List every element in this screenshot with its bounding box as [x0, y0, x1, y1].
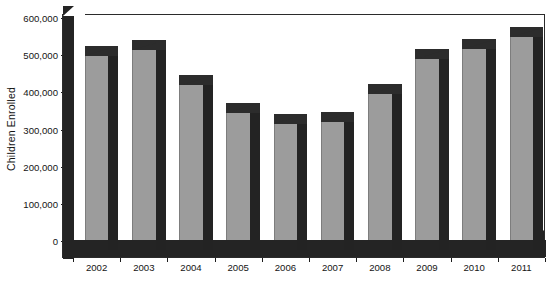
bar-front-face	[132, 50, 156, 240]
bar-front-face	[274, 124, 298, 240]
x-axis-tick-label: 2009	[407, 262, 447, 273]
x-axis-tick-mark	[403, 258, 404, 262]
bar-front-face	[226, 113, 250, 240]
bar-chart: Children Enrolled 0100,000200,000300,000…	[0, 0, 549, 297]
y-axis-tick-labels: 0100,000200,000300,000400,000500,000600,…	[18, 0, 62, 270]
x-axis-tick-label: 2003	[124, 262, 164, 273]
bar-front-face	[510, 37, 534, 240]
axis-back-wall	[63, 15, 74, 259]
plot-area	[62, 14, 545, 258]
y-axis-tick-label: 300,000	[23, 124, 58, 135]
y-axis-tick-label: 400,000	[23, 87, 58, 98]
x-axis-tick-mark	[120, 258, 121, 262]
x-axis-tick-label: 2008	[360, 262, 400, 273]
bar-2010	[462, 49, 486, 240]
bar-top-face	[132, 40, 166, 50]
y-axis-tick-label: 600,000	[23, 13, 58, 24]
bar-top-face	[274, 114, 308, 124]
bar-front-face	[85, 56, 109, 240]
x-axis-tick-mark	[262, 258, 263, 262]
x-axis-tick-label: 2007	[313, 262, 353, 273]
bar-side-face	[250, 113, 260, 250]
x-axis-tick-mark	[451, 258, 452, 262]
bar-2004	[179, 85, 203, 240]
bar-side-face	[344, 122, 354, 250]
bar-front-face	[179, 85, 203, 240]
bar-side-face	[439, 59, 449, 250]
x-axis-tick-labels: 2002200320042005200620072008200920102011	[62, 262, 545, 282]
x-axis-tick-mark	[309, 258, 310, 262]
x-axis-tick-mark	[545, 258, 546, 262]
bar-2002	[85, 56, 109, 240]
x-axis-tick-label: 2002	[77, 262, 117, 273]
y-axis-tick-label: 500,000	[23, 50, 58, 61]
bar-side-face	[156, 50, 166, 250]
bar-front-face	[368, 94, 392, 240]
bar-front-face	[321, 122, 345, 240]
x-axis-tick-mark	[73, 258, 74, 262]
bar-2003	[132, 50, 156, 240]
bar-side-face	[533, 37, 543, 250]
bar-top-face	[226, 103, 260, 113]
x-axis-tick-mark	[215, 258, 216, 262]
x-axis-tick-label: 2010	[454, 262, 494, 273]
y-axis-tick-label: 0	[53, 236, 58, 247]
bar-top-face	[85, 46, 119, 56]
x-axis-tick-mark	[167, 258, 168, 262]
x-axis-tick-mark	[498, 258, 499, 262]
x-axis-tick-label: 2011	[501, 262, 541, 273]
bar-top-face	[179, 75, 213, 85]
bar-front-face	[415, 59, 439, 240]
bar-2008	[368, 94, 392, 240]
bars-layer	[74, 15, 544, 240]
x-axis-tick-label: 2004	[171, 262, 211, 273]
y-axis-tick-label: 100,000	[23, 198, 58, 209]
x-axis-tick-mark	[356, 258, 357, 262]
bar-side-face	[108, 56, 118, 250]
bar-side-face	[297, 124, 307, 250]
x-axis-tick-label: 2005	[218, 262, 258, 273]
x-axis-tick-label: 2006	[265, 262, 305, 273]
y-axis-title-label: Children Enrolled	[5, 87, 17, 171]
bar-top-face	[368, 84, 402, 94]
bar-top-face	[415, 49, 449, 59]
bar-2005	[226, 113, 250, 240]
bar-2006	[274, 124, 298, 240]
bar-front-face	[462, 49, 486, 240]
bar-top-face	[321, 112, 355, 122]
bar-side-face	[486, 49, 496, 250]
bar-side-face	[203, 85, 213, 250]
y-axis-tick-label: 200,000	[23, 161, 58, 172]
bar-2009	[415, 59, 439, 240]
bar-2007	[321, 122, 345, 240]
bar-side-face	[392, 94, 402, 250]
bar-2011	[510, 37, 534, 240]
bar-top-face	[510, 27, 544, 37]
bar-top-face	[462, 39, 496, 49]
